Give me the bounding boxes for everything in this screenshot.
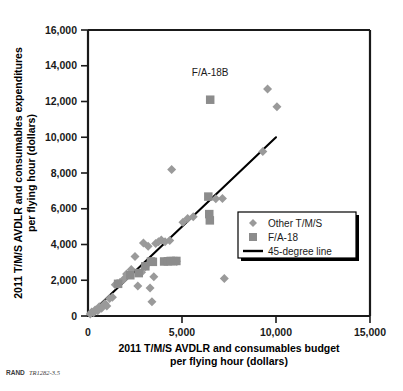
data-point bbox=[220, 274, 229, 283]
x-axis-tick-label: 5,000 bbox=[169, 326, 195, 338]
annotation-layer: F/A-18B bbox=[192, 67, 229, 78]
x-axis-title-line2: per flying hour (dollars) bbox=[170, 355, 288, 367]
data-point bbox=[126, 271, 135, 280]
legend-marker-square-icon bbox=[249, 233, 257, 241]
scatter-chart: 02,0004,0006,0008,00010,00012,00014,0001… bbox=[0, 0, 403, 391]
y-axis-tick-label: 0 bbox=[71, 310, 77, 322]
y-axis-tick-label: 6,000 bbox=[51, 202, 77, 214]
y-axis-tick-label: 12,000 bbox=[45, 95, 77, 107]
data-point bbox=[272, 102, 281, 111]
y-axis-title-line2: per flying hour (dollars) bbox=[25, 114, 37, 232]
data-point bbox=[146, 284, 155, 293]
chart-legend[interactable]: Other T/M/SF/A-1845-degree line bbox=[238, 212, 359, 261]
data-point bbox=[258, 147, 267, 156]
data-point bbox=[206, 95, 215, 104]
y-axis-tick-label: 8,000 bbox=[51, 167, 77, 179]
data-point bbox=[167, 165, 176, 174]
data-point bbox=[133, 281, 142, 290]
data-point bbox=[147, 297, 156, 306]
source-note-id: TR1282-3.5 bbox=[29, 369, 61, 376]
figure-container: 02,0004,0006,0008,00010,00012,00014,0001… bbox=[0, 0, 403, 391]
data-point bbox=[172, 257, 181, 266]
legend-entry-label[interactable]: 45-degree line bbox=[268, 246, 332, 257]
y-axis-tick-label: 10,000 bbox=[45, 131, 77, 143]
y-axis-tick-label: 14,000 bbox=[45, 59, 77, 71]
y-axis-tick-label: 4,000 bbox=[51, 238, 77, 250]
y-axis-tick-label: 2,000 bbox=[51, 274, 77, 286]
data-point bbox=[131, 252, 140, 261]
series-f-a-18 bbox=[114, 95, 215, 288]
data-point bbox=[114, 280, 123, 289]
data-points-layer bbox=[86, 84, 282, 318]
y-axis-title-line1: 2011 T/M/S AVDLR and consumables expendi… bbox=[12, 47, 24, 299]
data-point bbox=[218, 194, 227, 203]
legend-entry-label[interactable]: Other T/M/S bbox=[268, 218, 323, 229]
x-axis-tick-label: 15,000 bbox=[354, 326, 386, 338]
data-point bbox=[263, 84, 272, 93]
x-axis-tick-label: 0 bbox=[85, 326, 91, 338]
data-point bbox=[206, 216, 215, 225]
x-axis-title-line1: 2011 T/M/S AVDLR and consumables budget bbox=[118, 342, 340, 354]
data-point bbox=[204, 192, 213, 201]
source-note-prefix: RAND bbox=[6, 369, 25, 376]
y-axis-tick-label: 16,000 bbox=[45, 24, 77, 36]
data-point bbox=[149, 258, 158, 267]
data-point bbox=[149, 272, 158, 281]
legend-entry-label[interactable]: F/A-18 bbox=[268, 232, 298, 243]
point-annotation: F/A-18B bbox=[192, 67, 229, 78]
x-axis-tick-label: 10,000 bbox=[260, 326, 292, 338]
